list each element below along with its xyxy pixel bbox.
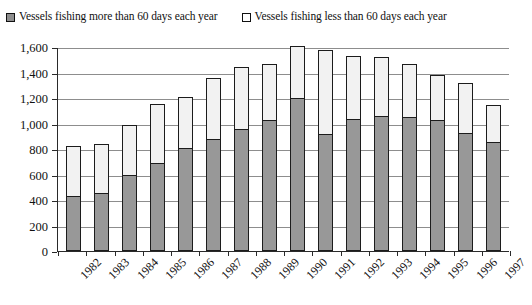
- stacked-bar[interactable]: [318, 50, 333, 251]
- x-axis-tick-label: 1988: [248, 256, 273, 281]
- bar-segment-more-than-60-days[interactable]: [290, 99, 305, 251]
- stacked-bar[interactable]: [262, 64, 277, 251]
- legend-item-more-than-60-days: Vessels fishing more than 60 days each y…: [6, 11, 218, 23]
- bar-segment-more-than-60-days[interactable]: [94, 194, 109, 251]
- y-axis-tick-label: 1,000: [20, 118, 48, 131]
- stacked-bar[interactable]: [66, 146, 81, 251]
- bar-segment-more-than-60-days[interactable]: [150, 164, 165, 251]
- stacked-bar[interactable]: [94, 144, 109, 251]
- bar-segment-less-than-60-days[interactable]: [206, 78, 221, 140]
- chart-legend: Vessels fishing more than 60 days each y…: [0, 6, 532, 28]
- x-axis-tick-label: 1991: [332, 256, 357, 281]
- bar-segment-less-than-60-days[interactable]: [262, 64, 277, 121]
- x-axis-tick-label: 1987: [219, 256, 244, 281]
- bar-segment-more-than-60-days[interactable]: [374, 117, 389, 251]
- bar-segment-more-than-60-days[interactable]: [178, 149, 193, 251]
- y-axis-tick-label: 0: [42, 246, 48, 259]
- stacked-bar[interactable]: [486, 105, 501, 251]
- bar-segment-less-than-60-days[interactable]: [150, 104, 165, 164]
- bar-slot: [451, 48, 479, 251]
- y-axis-tick-label: 1,600: [20, 42, 48, 55]
- bar-slot: [228, 48, 256, 251]
- stacked-bar[interactable]: [206, 78, 221, 251]
- bar-slot: [88, 48, 116, 251]
- bar-segment-more-than-60-days[interactable]: [234, 130, 249, 251]
- y-axis-tick-label: 1,400: [20, 67, 48, 80]
- bar-segment-less-than-60-days[interactable]: [66, 146, 81, 197]
- open-white-square-icon: [242, 13, 251, 22]
- x-axis-tick-label: 1984: [135, 256, 160, 281]
- bar-segment-less-than-60-days[interactable]: [402, 64, 417, 118]
- bar-segment-more-than-60-days[interactable]: [430, 121, 445, 251]
- x-axis-tick-label: 1993: [389, 256, 414, 281]
- bar-slot: [311, 48, 339, 251]
- bar-slot: [200, 48, 228, 251]
- plot-wrapper: [57, 48, 509, 252]
- bar-segment-less-than-60-days[interactable]: [234, 67, 249, 129]
- x-axis-labels: 1982198319841985198619871988198919901991…: [57, 254, 509, 304]
- bar-segment-more-than-60-days[interactable]: [66, 197, 81, 251]
- bar-slot: [339, 48, 367, 251]
- bar-segment-less-than-60-days[interactable]: [430, 75, 445, 121]
- bar-segment-less-than-60-days[interactable]: [122, 125, 137, 176]
- y-axis-tick-label: 600: [29, 169, 48, 182]
- bar-segment-more-than-60-days[interactable]: [402, 118, 417, 251]
- stacked-bar[interactable]: [234, 67, 249, 251]
- stacked-bar[interactable]: [178, 97, 193, 251]
- plot-area: [57, 48, 509, 252]
- legend-label-less-than-60-days: Vessels fishing less than 60 days each y…: [255, 11, 447, 23]
- bar-group: [58, 48, 509, 251]
- bar-segment-more-than-60-days[interactable]: [262, 121, 277, 251]
- bar-slot: [60, 48, 88, 251]
- bar-segment-less-than-60-days[interactable]: [458, 83, 473, 134]
- bar-segment-more-than-60-days[interactable]: [318, 135, 333, 251]
- y-axis-tick-label: 400: [29, 195, 48, 208]
- y-axis-tick-label: 800: [29, 144, 48, 157]
- stacked-bar[interactable]: [346, 56, 361, 251]
- x-axis-tick-label: 1994: [417, 256, 442, 281]
- bar-segment-less-than-60-days[interactable]: [290, 46, 305, 100]
- stacked-bar[interactable]: [430, 75, 445, 251]
- bar-segment-less-than-60-days[interactable]: [346, 56, 361, 120]
- bar-segment-less-than-60-days[interactable]: [94, 144, 109, 194]
- bar-slot: [256, 48, 284, 251]
- x-axis-tick: [510, 251, 511, 256]
- x-axis-tick-label: 1992: [361, 256, 386, 281]
- x-axis-tick-label: 1997: [502, 256, 527, 281]
- bar-segment-more-than-60-days[interactable]: [458, 134, 473, 251]
- bar-segment-less-than-60-days[interactable]: [374, 57, 389, 118]
- stacked-bar[interactable]: [374, 57, 389, 251]
- x-axis-tick-label: 1995: [445, 256, 470, 281]
- x-axis-tick-label: 1985: [163, 256, 188, 281]
- y-axis-tick-label: 1,200: [20, 93, 48, 106]
- bar-segment-less-than-60-days[interactable]: [178, 97, 193, 149]
- bar-slot: [172, 48, 200, 251]
- x-axis-tick-label: 1983: [106, 256, 131, 281]
- bar-slot: [284, 48, 312, 251]
- x-axis-tick-label: 1996: [474, 256, 499, 281]
- y-axis-tick-label: 200: [29, 220, 48, 233]
- bar-slot: [367, 48, 395, 251]
- bar-slot: [423, 48, 451, 251]
- bar-segment-less-than-60-days[interactable]: [318, 50, 333, 135]
- bar-segment-more-than-60-days[interactable]: [122, 176, 137, 251]
- filled-gray-square-icon: [6, 13, 15, 22]
- bar-segment-more-than-60-days[interactable]: [346, 120, 361, 251]
- x-axis-tick-label: 1989: [276, 256, 301, 281]
- bar-segment-more-than-60-days[interactable]: [486, 143, 501, 251]
- bar-slot: [144, 48, 172, 251]
- legend-item-less-than-60-days: Vessels fishing less than 60 days each y…: [242, 11, 447, 23]
- bar-segment-more-than-60-days[interactable]: [206, 140, 221, 251]
- stacked-bar[interactable]: [402, 64, 417, 251]
- x-axis-tick-label: 1990: [304, 256, 329, 281]
- bar-slot: [395, 48, 423, 251]
- stacked-bar[interactable]: [122, 125, 137, 251]
- x-axis-tick-label: 1986: [191, 256, 216, 281]
- y-axis-tick: [52, 252, 57, 253]
- bar-segment-less-than-60-days[interactable]: [486, 105, 501, 143]
- bar-slot: [479, 48, 507, 251]
- stacked-bar-chart: Vessels fishing more than 60 days each y…: [0, 0, 532, 305]
- stacked-bar[interactable]: [290, 46, 305, 251]
- stacked-bar[interactable]: [150, 104, 165, 251]
- stacked-bar[interactable]: [458, 83, 473, 251]
